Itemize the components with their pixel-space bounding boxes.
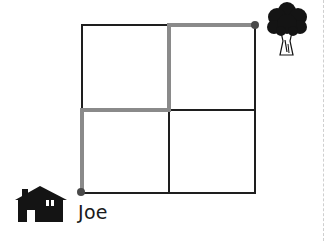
house-icon bbox=[15, 186, 67, 222]
start-dot bbox=[77, 188, 85, 196]
end-dot bbox=[251, 21, 259, 29]
start-label: Joe bbox=[78, 201, 108, 223]
grid-diagram bbox=[0, 0, 325, 241]
page-edge-divider bbox=[323, 0, 324, 241]
tree-icon bbox=[267, 2, 307, 55]
